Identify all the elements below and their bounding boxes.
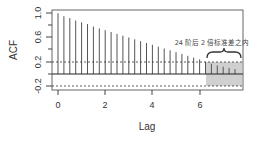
y-tick-0.2: 0.2: [33, 56, 43, 69]
x-axis-title: Lag: [139, 121, 156, 132]
x-tick-2: 2: [102, 100, 107, 110]
y-axis-title: ACF: [8, 40, 19, 60]
x-tick-4: 4: [149, 100, 154, 110]
x-axis: 0 2 4 6: [55, 90, 202, 110]
y-axis: 1.0 0.6 0.2 -0.2: [33, 7, 52, 94]
y-tick-1.0: 1.0: [33, 7, 43, 20]
acf-chart: 1.0 0.6 0.2 -0.2 0 2 4 6 Lag ACF 24 阶后 2…: [0, 0, 253, 144]
y-tick-0.6: 0.6: [33, 31, 43, 44]
y-tick-neg0.2: -0.2: [33, 78, 43, 94]
annotation-text: 24 阶后 2 倍标准差之内: [175, 38, 250, 47]
curly-brace-icon: [207, 48, 241, 58]
x-tick-6: 6: [197, 100, 202, 110]
x-tick-0: 0: [55, 100, 60, 110]
